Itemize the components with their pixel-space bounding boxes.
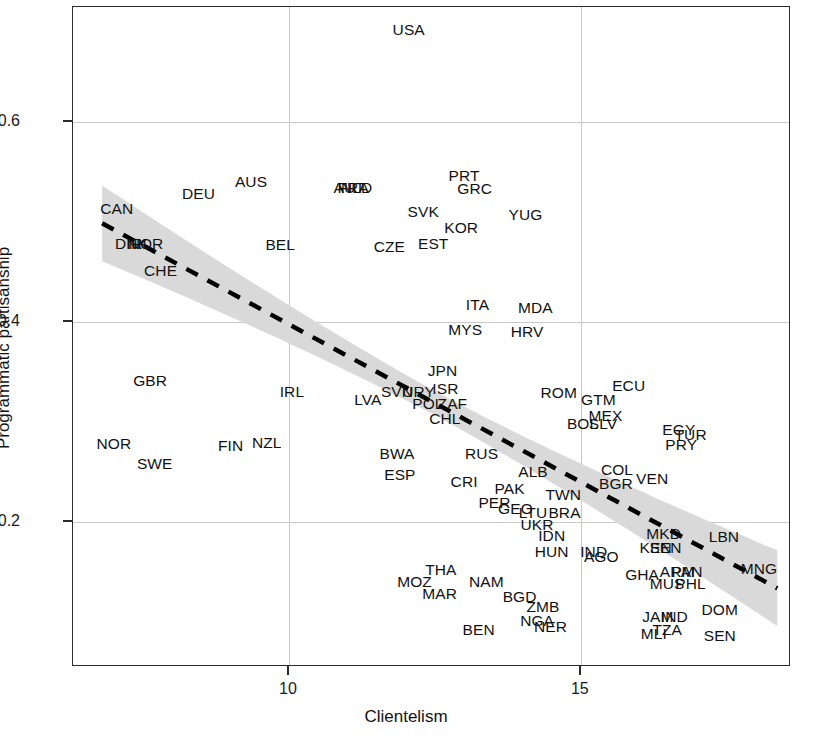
gridline-y-0.2 (73, 522, 789, 523)
data-point-label: HUN (535, 544, 569, 560)
data-point-label: SVK (408, 204, 439, 220)
data-point-label: SEN (704, 628, 736, 644)
data-point-label: BEN (463, 622, 495, 638)
data-point-label: CAN (100, 201, 133, 217)
data-point-label: PRY (665, 437, 697, 453)
data-point-label: LVA (354, 392, 381, 408)
data-point-label: EST (418, 236, 448, 252)
data-point-label: CHE (144, 263, 177, 279)
data-point-label: AUS (235, 174, 267, 190)
data-point-label: NLD (341, 180, 372, 196)
gridline-x-15 (581, 7, 582, 665)
data-point-label: MNG (741, 561, 777, 577)
data-point-label: ALB (518, 464, 548, 480)
data-point-label: BEL (265, 237, 295, 253)
data-point-label: LBN (709, 529, 739, 545)
data-point-label: MYS (448, 322, 482, 338)
data-point-label: CHL (429, 411, 460, 427)
data-point-label: NOR (129, 236, 164, 252)
data-point-label: JPN (428, 363, 458, 379)
data-point-label: MDA (518, 300, 553, 316)
data-point-label: USA (393, 22, 425, 38)
data-point-label: SLV (589, 416, 617, 432)
data-point-label: ROM (540, 385, 576, 401)
data-point-label: AGO (584, 549, 619, 565)
plot-area: USAAUSAUTFRANLDPRTGRCDEUCANSVKYUGKORDNKI… (72, 6, 790, 666)
data-point-label: HRV (511, 324, 544, 340)
data-point-label: CZE (374, 239, 405, 255)
chart-page: 0.20.40.6 1015 Programmatic partisanship… (0, 0, 813, 736)
data-point-label: VEN (636, 471, 668, 487)
gridline-x-10 (289, 7, 290, 665)
data-point-label: GBR (133, 373, 167, 389)
data-point-label: BGR (599, 476, 633, 492)
x-tick-mark-10 (287, 666, 289, 675)
data-point-label: MAR (422, 586, 457, 602)
data-point-label: BWA (379, 446, 414, 462)
data-point-label: DEU (182, 186, 215, 202)
x-axis-label: Clientelism (364, 707, 447, 727)
data-point-label: SEN (649, 540, 681, 556)
data-point-label: GRC (457, 181, 492, 197)
data-point-label: NZL (252, 435, 282, 451)
data-point-label: ECU (612, 378, 645, 394)
data-point-label: GTM (581, 392, 616, 408)
data-point-label: SWE (137, 456, 173, 472)
x-tick-label-15: 15 (571, 680, 589, 698)
data-point-label: KOR (444, 220, 478, 236)
gridline-y-0.6 (73, 122, 789, 123)
data-point-label: ITA (466, 297, 489, 313)
data-point-label: NAM (469, 574, 504, 590)
data-point-label: TZA (652, 622, 682, 638)
data-point-label: NER (534, 619, 567, 635)
gridline-y-0.4 (73, 322, 789, 323)
data-point-label: TWN (546, 487, 582, 503)
x-tick-label-10: 10 (279, 680, 297, 698)
data-point-label: IRL (280, 384, 304, 400)
data-point-label: NOR (97, 436, 132, 452)
y-axis-label: Programmatic partisanship (0, 247, 14, 449)
x-tick-mark-15 (579, 666, 581, 675)
data-point-label: IDN (538, 528, 565, 544)
data-point-label: FIN (218, 438, 243, 454)
data-point-label: YUG (508, 207, 542, 223)
data-point-label: DOM (702, 602, 738, 618)
data-point-label: PHL (675, 576, 705, 592)
data-point-label: RUS (465, 446, 498, 462)
data-point-label: ESP (384, 467, 415, 483)
data-point-label: CRI (451, 474, 478, 490)
